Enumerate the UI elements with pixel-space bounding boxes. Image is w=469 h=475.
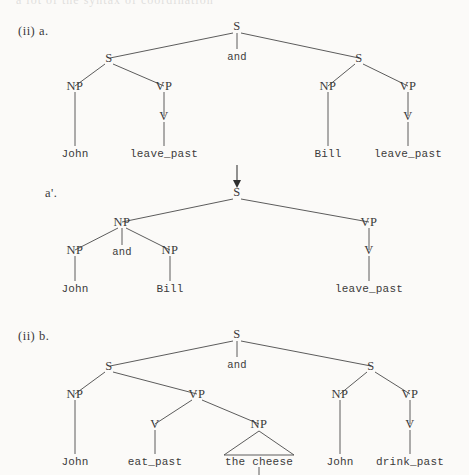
node-ap-right-np: NP [161,243,178,257]
node-right-s: S [355,51,363,65]
leaf-ap-john: John [61,283,88,295]
edge-ap-root-vp [241,199,369,222]
node-b-left-s: S [105,359,113,373]
node-b-left-vp: VP [188,387,205,401]
edge-root-to-right-s [241,33,359,58]
leaf-ap-bill: Bill [156,283,183,295]
node-b-and: and [227,359,247,371]
leaf-john-1: John [61,148,88,160]
node-left-s: S [105,51,113,65]
leaf-b-the-cheese: the cheese [225,456,293,468]
tree-ii-b: S and S NP VP V NP John eat_past the che… [61,327,444,475]
node-right-v: V [403,109,413,123]
node-ap-root-s: S [233,185,241,199]
triangle-the-cheese [224,431,294,455]
leaf-b-john-1: John [61,456,88,468]
leaf-ap-leave-past: leave_past [335,283,403,295]
caption-a-prime: a'. [45,186,57,200]
leaf-b-eat-past: eat_past [128,456,182,468]
node-ap-vp: VP [360,215,377,229]
node-right-np: NP [319,79,336,93]
caption-ii-a: (ii) a. [18,24,49,38]
node-b-left-v: V [150,417,160,431]
syntax-trees-canvas: S and S NP VP V John leave_past S NP VP … [0,0,469,475]
node-b-right-np: NP [331,387,348,401]
caption-ii-b: (ii) b. [18,329,49,343]
edge-root-to-left-s [110,33,233,58]
leaf-leave-past-2: leave_past [374,148,442,160]
tree-ii-a-prime: S NP NP and NP John Bill VP V leave_past [61,185,403,295]
edge-b-ls-vp [113,372,197,394]
node-b-object-np: NP [250,417,267,431]
node-ap-subject-np: NP [113,215,130,229]
node-left-vp: VP [155,79,172,93]
edge-b-root-left-s [110,341,233,366]
node-left-v: V [159,109,169,123]
edge-b-vp-v [155,400,192,424]
node-b-right-v: V [405,417,415,431]
edge-ap-root-np [122,199,233,222]
node-left-np: NP [66,79,83,93]
node-b-right-s: S [367,359,375,373]
leaf-b-drink-past: drink_past [376,456,444,468]
node-right-vp: VP [399,79,416,93]
leaf-bill: Bill [314,148,341,160]
leaf-leave-past-1: leave_past [130,148,198,160]
node-ap-and: and [112,246,132,258]
edge-b-root-right-s [241,341,371,366]
leaf-b-john-2: John [326,456,353,468]
node-b-right-vp: VP [401,387,418,401]
node-and: and [227,51,247,63]
node-ap-v: V [364,243,374,257]
node-b-left-np: NP [66,387,83,401]
figure-page: a lot of the syntax of coordination S [0,0,469,475]
tree-ii-a: S and S NP VP V John leave_past S NP VP … [61,19,442,160]
node-root-s: S [233,19,241,33]
node-ap-left-np: NP [66,243,83,257]
node-b-root-s: S [233,327,241,341]
